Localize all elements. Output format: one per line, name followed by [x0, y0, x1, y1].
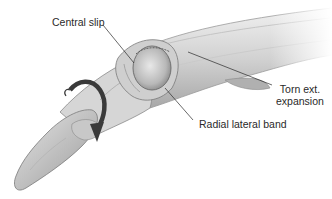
label-radial-lateral-band: Radial lateral band — [199, 118, 287, 130]
finger-illustration: Central slip Torn ext. expansion Radial … — [0, 0, 332, 199]
label-torn-ext-line1: Torn ext. — [276, 83, 324, 95]
distal-phalanx — [14, 110, 100, 190]
label-torn-ext-line2: expansion — [276, 95, 324, 107]
label-torn-ext-expansion: Torn ext. expansion — [276, 83, 324, 107]
label-central-slip: Central slip — [52, 16, 105, 28]
